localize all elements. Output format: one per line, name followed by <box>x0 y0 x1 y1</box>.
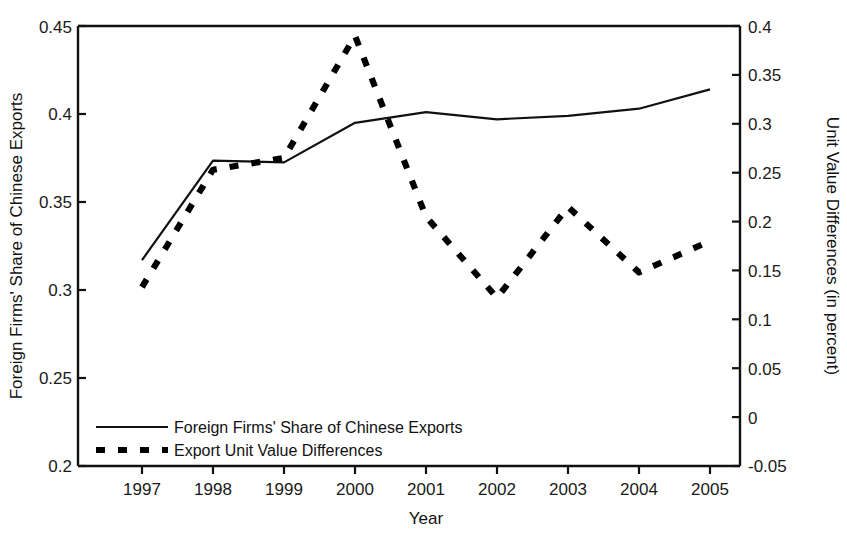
legend-label-export-unit-value-differences: Export Unit Value Differences <box>174 442 382 459</box>
legend-label-foreign-firms-share: Foreign Firms' Share of Chinese Exports <box>174 419 463 436</box>
chart-figure: 0.2 0.25 0.3 0.35 0.4 0.45 -0.05 0 0.05 … <box>0 0 847 544</box>
x-axis-tick-labels: 1997 1998 1999 2000 2001 2002 2003 2004 … <box>123 480 729 499</box>
y-left-tick-4: 0.4 <box>48 105 72 124</box>
x-tick-1999: 1999 <box>265 480 303 499</box>
y-right-tick-6: 0.25 <box>748 164 781 183</box>
plot-frame <box>78 26 740 466</box>
x-tick-2001: 2001 <box>407 480 445 499</box>
y-axis-right-title: Unit Value Differences (in percent) <box>823 117 842 375</box>
x-tick-1998: 1998 <box>194 480 232 499</box>
x-tick-2005: 2005 <box>691 480 729 499</box>
y-axis-left-tick-labels: 0.2 0.25 0.3 0.35 0.4 0.45 <box>39 18 72 476</box>
y-left-tick-3: 0.35 <box>39 193 72 212</box>
x-axis-title: Year <box>409 509 444 528</box>
x-axis-ticks <box>142 466 710 474</box>
x-tick-2003: 2003 <box>549 480 587 499</box>
y-right-tick-3: 0.1 <box>748 311 772 330</box>
y-right-tick-2: 0.05 <box>748 360 781 379</box>
x-tick-2002: 2002 <box>478 480 516 499</box>
y-right-tick-1: 0 <box>748 409 757 428</box>
y-right-tick-0: -0.05 <box>748 457 787 476</box>
y-right-tick-5: 0.2 <box>748 213 772 232</box>
x-tick-2000: 2000 <box>336 480 374 499</box>
y-left-tick-2: 0.3 <box>48 281 72 300</box>
y-left-tick-1: 0.25 <box>39 369 72 388</box>
y-left-tick-5: 0.45 <box>39 18 72 37</box>
y-right-tick-9: 0.4 <box>748 18 772 37</box>
y-right-tick-4: 0.15 <box>748 262 781 281</box>
x-tick-1997: 1997 <box>123 480 161 499</box>
y-axis-left-title: Foreign Firms' Share of Chinese Exports <box>7 93 26 400</box>
y-left-tick-0: 0.2 <box>48 457 72 476</box>
y-right-tick-7: 0.3 <box>748 115 772 134</box>
y-right-tick-8: 0.35 <box>748 66 781 85</box>
legend: Foreign Firms' Share of Chinese Exports … <box>96 419 463 459</box>
series-line-export-unit-value-differences <box>142 36 710 298</box>
chart-svg: 0.2 0.25 0.3 0.35 0.4 0.45 -0.05 0 0.05 … <box>0 0 847 544</box>
series-line-foreign-firms-share <box>142 89 710 260</box>
x-tick-2004: 2004 <box>620 480 658 499</box>
y-axis-right-tick-labels: -0.05 0 0.05 0.1 0.15 0.2 0.25 0.3 0.35 … <box>748 18 787 477</box>
